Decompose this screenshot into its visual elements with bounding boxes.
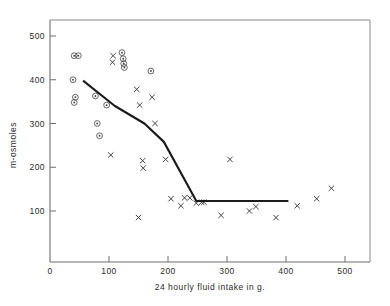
circled-dot-marker bbox=[93, 93, 99, 99]
circle-center-dot bbox=[77, 55, 79, 57]
cross-marker bbox=[137, 102, 142, 107]
cross-marker bbox=[141, 165, 146, 170]
circle-center-dot bbox=[121, 52, 123, 54]
axes bbox=[50, 20, 370, 262]
cross-marker bbox=[110, 53, 115, 58]
y-axis-title: m-osmoles bbox=[8, 122, 18, 168]
cross-marker bbox=[163, 157, 168, 162]
circled-dot-marker bbox=[119, 50, 125, 56]
circled-dot-marker bbox=[70, 77, 76, 83]
cross-marker bbox=[329, 186, 334, 191]
y-tick-label: 200 bbox=[30, 162, 45, 172]
x-tick-label: 200 bbox=[160, 266, 175, 276]
cross-marker bbox=[182, 195, 187, 200]
circled-dot-marker bbox=[71, 100, 77, 106]
circle-center-dot bbox=[150, 70, 152, 72]
y-tick-label: 400 bbox=[30, 75, 45, 85]
cross-marker bbox=[108, 152, 113, 157]
circled-dot-marker bbox=[148, 68, 154, 74]
x-axis-title: 24 hourly fluid intake in g. bbox=[155, 282, 265, 292]
scatter-plot-figure: 100200300400500 0100200300400500 24 hour… bbox=[0, 0, 390, 306]
circle-center-dot bbox=[74, 96, 76, 98]
circle-center-dot bbox=[72, 79, 74, 81]
fitted-response-curve bbox=[83, 81, 288, 201]
cross-marker bbox=[140, 158, 145, 163]
circle-center-dot bbox=[96, 123, 98, 125]
circled-dot-marker bbox=[94, 121, 100, 127]
cross-marker bbox=[134, 87, 139, 92]
frame-border bbox=[50, 20, 370, 262]
data-markers-layer bbox=[70, 50, 334, 221]
y-tick-label: 100 bbox=[30, 206, 45, 216]
x-tick-label: 100 bbox=[101, 266, 116, 276]
circled-dot-marker bbox=[121, 65, 127, 71]
circle-center-dot bbox=[122, 58, 124, 60]
circled-dot-marker bbox=[72, 94, 78, 100]
circle-center-dot bbox=[99, 135, 101, 137]
cross-marker bbox=[273, 215, 278, 220]
x-tick-label: 300 bbox=[219, 266, 234, 276]
circle-center-dot bbox=[73, 102, 75, 104]
x-axis-ticks: 0100200300400500 bbox=[47, 256, 352, 276]
plot-frame bbox=[50, 20, 370, 262]
y-tick-label: 500 bbox=[30, 31, 45, 41]
circle-center-dot bbox=[106, 104, 108, 106]
cross-marker bbox=[168, 196, 173, 201]
circle-center-dot bbox=[123, 67, 125, 69]
circle-center-dot bbox=[94, 95, 96, 97]
cross-marker bbox=[218, 213, 223, 218]
y-tick-label: 300 bbox=[30, 119, 45, 129]
cross-marker bbox=[187, 195, 192, 200]
circled-dot-marker bbox=[75, 53, 81, 59]
cross-marker bbox=[152, 121, 157, 126]
x-tick-label: 0 bbox=[47, 266, 52, 276]
y-axis-ticks: 100200300400500 bbox=[30, 31, 56, 216]
cross-marker bbox=[149, 95, 154, 100]
cross-marker bbox=[247, 208, 252, 213]
circle-center-dot bbox=[73, 55, 75, 57]
circled-dot-marker bbox=[97, 133, 103, 139]
cross-marker bbox=[110, 60, 115, 65]
x-tick-label: 400 bbox=[278, 266, 293, 276]
fit-line-layer bbox=[83, 81, 288, 201]
cross-marker bbox=[178, 203, 183, 208]
cross-marker bbox=[227, 157, 232, 162]
cross-marker bbox=[295, 203, 300, 208]
cross-marker bbox=[253, 204, 258, 209]
cross-marker bbox=[136, 215, 141, 220]
circled-dot-marker bbox=[104, 102, 110, 108]
series-cross-group bbox=[108, 53, 334, 220]
x-tick-label: 500 bbox=[337, 266, 352, 276]
cross-marker bbox=[314, 196, 319, 201]
